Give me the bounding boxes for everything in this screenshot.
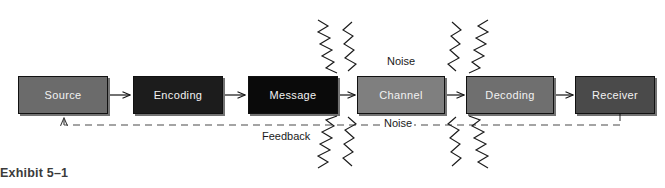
feedback-label: Feedback <box>262 130 310 142</box>
node-receiver-label: Receiver <box>592 89 638 101</box>
node-message[interactable]: Message <box>248 76 338 114</box>
node-encoding[interactable]: Encoding <box>133 76 223 114</box>
node-source[interactable]: Source <box>18 76 108 114</box>
node-channel[interactable]: Channel <box>357 76 445 114</box>
noise-bolt-icon <box>318 116 337 168</box>
node-message-label: Message <box>269 89 316 101</box>
node-source-label: Source <box>45 89 82 101</box>
node-encoding-label: Encoding <box>154 89 203 101</box>
noise-bolt-icon <box>448 22 461 71</box>
noise-bolt-icon <box>318 20 337 73</box>
node-receiver[interactable]: Receiver <box>575 76 655 114</box>
figure-caption: Exhibit 5–1 <box>0 166 68 180</box>
noise-bolt-icon <box>469 116 488 168</box>
noise-bolt-icon <box>343 22 356 71</box>
noise-bolt-icon <box>469 20 488 73</box>
noise-label-top: Noise <box>385 55 417 67</box>
exhibit-figure: Source Encoding Message Channel Decoding… <box>0 0 665 188</box>
feedback-loop-path <box>64 114 620 125</box>
node-channel-label: Channel <box>379 89 422 101</box>
node-decoding-label: Decoding <box>485 89 534 101</box>
noise-label-bottom: Noise <box>382 117 414 129</box>
noise-bolt-icon <box>343 117 356 166</box>
noise-bolt-icon <box>448 117 461 166</box>
node-decoding[interactable]: Decoding <box>466 76 554 114</box>
